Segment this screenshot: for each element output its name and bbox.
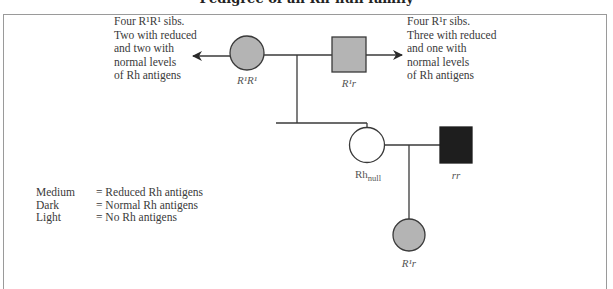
legend-value: = Normal Rh antigens xyxy=(96,199,198,212)
annotation-line: normal levels xyxy=(114,56,197,70)
child-symbol xyxy=(393,219,425,251)
grandfather-label: R¹r xyxy=(342,77,356,89)
annotation-line: and two with xyxy=(114,42,197,56)
annotation-line: Four R¹R¹ sibs. xyxy=(114,15,197,29)
annotation-line: of Rh antigens xyxy=(114,69,197,83)
annotation-line: Two with reduced xyxy=(114,29,197,43)
proband-symbol xyxy=(350,128,385,163)
legend-value: = Reduced Rh antigens xyxy=(96,186,203,199)
proband-label-main: Rh xyxy=(355,168,368,180)
proband-label: Rhnull xyxy=(355,168,381,183)
proband-label-sub: null xyxy=(368,173,381,183)
annotation-line: Four R¹r sibs. xyxy=(407,15,496,29)
grandmother-label: R¹R¹ xyxy=(237,74,257,86)
grandfather-symbol xyxy=(332,37,366,72)
spouse-symbol xyxy=(440,127,472,163)
legend-value: = No Rh antigens xyxy=(96,211,177,224)
legend: Medium = Reduced Rh antigens Dark = Norm… xyxy=(36,186,203,224)
spouse-label: rr xyxy=(452,169,461,181)
right-sibs-annotation: Four R¹r sibs. Three with reduced and on… xyxy=(407,15,496,83)
annotation-line: and one with xyxy=(407,42,496,56)
legend-row-medium: Medium = Reduced Rh antigens xyxy=(36,186,203,199)
annotation-line: of Rh antigens xyxy=(407,69,496,83)
child-label: R¹r xyxy=(402,257,416,269)
legend-key: Medium xyxy=(36,186,96,199)
legend-key: Light xyxy=(36,211,96,224)
grandmother-symbol xyxy=(230,36,264,70)
left-sibs-annotation: Four R¹R¹ sibs. Two with reduced and two… xyxy=(114,15,197,83)
annotation-line: Three with reduced xyxy=(407,29,496,43)
legend-row-light: Light = No Rh antigens xyxy=(36,211,203,224)
legend-key: Dark xyxy=(36,199,96,212)
legend-row-dark: Dark = Normal Rh antigens xyxy=(36,199,203,212)
annotation-line: normal levels xyxy=(407,56,496,70)
